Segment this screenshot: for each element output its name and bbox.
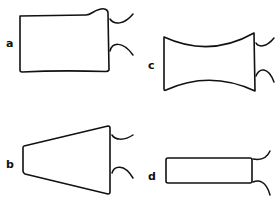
panel-c-upper-lead — [256, 38, 274, 46]
panel-b: b — [6, 126, 133, 194]
panel-d-upper-lead — [253, 151, 270, 159]
panel-b-upper-lead — [112, 135, 133, 139]
panel-d-label: d — [148, 170, 156, 183]
panel-a-label: a — [6, 37, 13, 50]
panel-d-body — [166, 158, 252, 183]
panel-a-upper-lead — [110, 14, 133, 23]
panel-c-body — [164, 33, 255, 91]
panel-b-lower-lead — [112, 167, 133, 178]
panel-c-lower-lead — [256, 70, 274, 82]
capacitor-shapes-diagram: a c b d — [0, 0, 280, 201]
panel-c: c — [148, 33, 274, 91]
panel-b-body — [23, 126, 110, 194]
panel-d: d — [148, 151, 270, 195]
panel-a-body — [20, 9, 109, 72]
panel-b-label: b — [6, 158, 14, 171]
panel-a: a — [6, 9, 133, 72]
panel-c-label: c — [148, 59, 155, 72]
panel-d-lower-lead — [253, 181, 270, 195]
panel-a-lower-lead — [110, 44, 133, 55]
